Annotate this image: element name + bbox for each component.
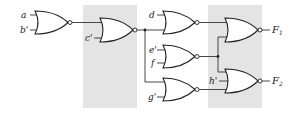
output-f1-label: F1 — [271, 24, 283, 36]
input-b-label: b' — [20, 25, 28, 35]
nor-gate-5 — [157, 78, 199, 101]
input-d-label: d — [149, 10, 155, 20]
logic-circuit-diagram: a b' c' d e' f g' — [0, 0, 293, 116]
input-a-label: a — [21, 10, 26, 20]
nor-gate-7 — [219, 69, 270, 93]
junction-dot — [217, 55, 220, 58]
input-e-label: e' — [149, 45, 157, 55]
nor-gate-3 — [157, 11, 199, 34]
output-f2-label: F2 — [271, 75, 283, 87]
input-f-label: f — [150, 58, 156, 68]
input-g-label: g' — [148, 92, 156, 102]
input-h-label: h' — [209, 76, 217, 86]
nor-gate-4 — [157, 45, 199, 68]
input-c-label: c' — [85, 33, 93, 43]
junction-dot — [144, 29, 147, 32]
nor-gate-1 — [30, 11, 72, 34]
